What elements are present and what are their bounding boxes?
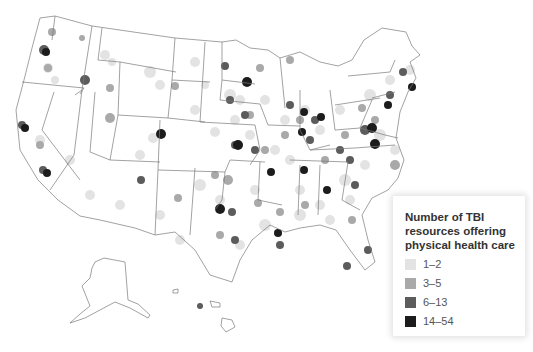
legend-title-line: Number of TBI bbox=[405, 210, 523, 224]
legend-label: 6–13 bbox=[423, 296, 447, 308]
legend: Number of TBI resources offering physica… bbox=[393, 196, 525, 336]
legend-swatch bbox=[405, 259, 416, 270]
legend-item-3-5: 3–5 bbox=[405, 277, 441, 289]
legend-item-6-13: 6–13 bbox=[405, 296, 447, 308]
legend-item-1-2: 1–2 bbox=[405, 258, 441, 270]
legend-swatch bbox=[405, 297, 416, 308]
legend-label: 14–54 bbox=[423, 315, 454, 327]
legend-title-line: resources offering bbox=[405, 224, 523, 238]
resource-blobs bbox=[18, 28, 420, 309]
legend-label: 1–2 bbox=[423, 258, 441, 270]
legend-title: Number of TBI resources offering physica… bbox=[405, 210, 523, 252]
legend-title-line: physical health care bbox=[405, 238, 523, 252]
legend-swatch bbox=[405, 278, 416, 289]
legend-label: 3–5 bbox=[423, 277, 441, 289]
legend-item-14-54: 14–54 bbox=[405, 315, 454, 327]
legend-swatch bbox=[405, 316, 416, 327]
